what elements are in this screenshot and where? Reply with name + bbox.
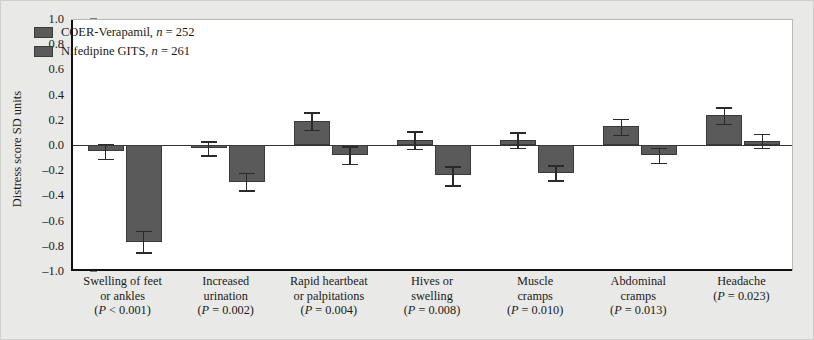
error-bar-cap-upper [304, 112, 320, 114]
x-axis-category-line: Muscle [484, 274, 587, 289]
error-bar-line [311, 112, 313, 130]
bar-group [486, 19, 589, 269]
x-axis-category-line: Swelling of feet [71, 274, 174, 289]
legend-item-label: COER-Verapamil, n = 252 [61, 25, 194, 40]
x-axis-category-line: urination [174, 289, 277, 304]
error-bar-cap-upper [754, 134, 770, 136]
x-axis-category-label: Swelling of feetor ankles(P < 0.001) [71, 274, 174, 318]
x-axis-labels: Swelling of feetor ankles(P < 0.001)Incr… [71, 274, 793, 334]
x-axis-pvalue: (P = 0.002) [174, 303, 277, 318]
error-bar-line [208, 141, 210, 155]
y-tick-label: –0.6 [26, 213, 64, 228]
legend-item-label: Nifedipine GITS, n = 261 [61, 44, 190, 59]
error-bar-cap-lower [98, 159, 114, 161]
error-bar-cap-upper [342, 146, 358, 148]
bar-group [279, 19, 382, 269]
error-bar-cap-upper [716, 107, 732, 109]
error-bar-cap-upper [548, 165, 564, 167]
bar[interactable] [126, 145, 162, 242]
x-axis-category-label: Headache(P = 0.023) [690, 274, 793, 303]
error-bar-line [143, 231, 145, 252]
legend-item[interactable]: Nifedipine GITS, n = 261 [34, 43, 194, 60]
x-axis-pvalue: (P < 0.001) [71, 303, 174, 318]
error-bar-line [414, 131, 416, 149]
error-bar-line [349, 146, 351, 164]
error-bar-line [246, 173, 248, 191]
x-axis-pvalue: (P = 0.008) [380, 303, 483, 318]
legend-swatch-icon [34, 27, 53, 38]
error-bar-cap-upper [445, 166, 461, 168]
error-bar-cap-lower [716, 124, 732, 126]
error-bar-cap-upper [651, 148, 667, 150]
error-bar-cap-upper [201, 141, 217, 143]
x-axis-category-line: Abdominal [587, 274, 690, 289]
y-tick-label: –0.2 [26, 163, 64, 178]
error-bar-cap-lower [613, 135, 629, 137]
x-axis-category-line: or palpitations [277, 289, 380, 304]
error-bar-cap-upper [136, 231, 152, 233]
error-bar-cap-lower [136, 252, 152, 254]
x-axis-category-line: or ankles [71, 289, 174, 304]
x-axis-category-line: Hives or [380, 274, 483, 289]
error-bar-line [555, 165, 557, 180]
y-tick-label: –0.4 [26, 188, 64, 203]
x-axis-pvalue: (P = 0.004) [277, 303, 380, 318]
bar-group [692, 19, 795, 269]
error-bar-cap-lower [754, 148, 770, 150]
y-tick-label: 0.4 [26, 87, 64, 102]
error-bar-line [621, 119, 623, 135]
bar-group [382, 19, 485, 269]
x-axis-category-label: Abdominalcramps(P = 0.013) [587, 274, 690, 318]
y-tick-label: 0.0 [26, 138, 64, 153]
error-bar-cap-lower [304, 130, 320, 132]
x-axis-category-label: Rapid heartbeator palpitations(P = 0.004… [277, 274, 380, 318]
y-axis-title: Distress score SD units [8, 24, 26, 274]
x-axis-category-label: Musclecramps(P = 0.010) [484, 274, 587, 318]
x-axis-category-line: Increased [174, 274, 277, 289]
y-axis-title-text: Distress score SD units [10, 91, 25, 207]
error-bar-cap-upper [407, 131, 423, 133]
error-bar-cap-lower [445, 185, 461, 187]
y-tick-label: 0.6 [26, 62, 64, 77]
error-bar-line [659, 148, 661, 163]
x-axis-category-label: Increasedurination(P = 0.002) [174, 274, 277, 318]
y-tick-label: –0.8 [26, 238, 64, 253]
error-bar-cap-lower [342, 164, 358, 166]
x-axis-pvalue: (P = 0.010) [484, 303, 587, 318]
error-bar-cap-lower [201, 155, 217, 157]
error-bar-cap-upper [98, 144, 114, 146]
legend-swatch-icon [34, 46, 53, 57]
legend-item[interactable]: COER-Verapamil, n = 252 [34, 24, 194, 41]
error-bar-line [724, 107, 726, 123]
x-axis-pvalue: (P = 0.013) [587, 303, 690, 318]
error-bar-line [762, 134, 764, 148]
x-axis-category-line: cramps [484, 289, 587, 304]
x-axis-category-line: Headache [690, 274, 793, 289]
error-bar-cap-lower [651, 163, 667, 165]
legend: COER-Verapamil, n = 252Nifedipine GITS, … [34, 24, 194, 62]
x-axis-pvalue: (P = 0.023) [690, 289, 793, 304]
x-axis-category-line: Rapid heartbeat [277, 274, 380, 289]
y-tick-label: –1.0 [26, 264, 64, 279]
error-bar-cap-lower [510, 148, 526, 150]
figure-container: Distress score SD units 1.00.80.60.40.20… [0, 0, 814, 340]
error-bar-line [452, 166, 454, 185]
bar-group [589, 19, 692, 269]
error-bar-cap-upper [510, 132, 526, 134]
error-bar-cap-lower [548, 180, 564, 182]
x-axis-category-line: cramps [587, 289, 690, 304]
y-tick-label: 0.2 [26, 112, 64, 127]
x-axis-category-line: swelling [380, 289, 483, 304]
error-bar-line [105, 144, 107, 159]
error-bar-cap-lower [407, 149, 423, 151]
error-bar-cap-upper [239, 173, 255, 175]
error-bar-cap-lower [239, 190, 255, 192]
error-bar-cap-upper [613, 119, 629, 121]
x-axis-category-label: Hives orswelling(P = 0.008) [380, 274, 483, 318]
error-bar-line [517, 132, 519, 147]
